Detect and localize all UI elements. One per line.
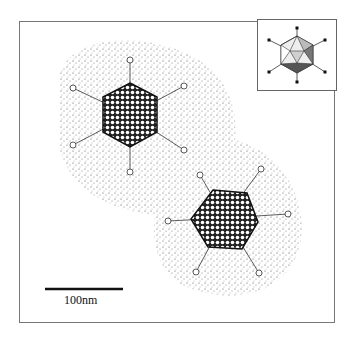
scale-bar-label: 100nm: [64, 293, 97, 308]
icosahedron-inset: [257, 19, 337, 91]
icosahedron-model: [258, 20, 335, 89]
